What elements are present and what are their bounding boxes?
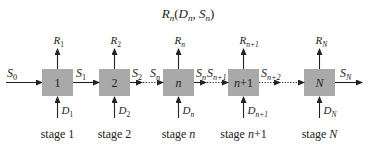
stage-caption: stage 2 (98, 127, 132, 141)
multistage-decision-diagram: Rn(Dn, Sn) S01R1D1stage 12R2D2stage 2nRn… (0, 0, 377, 151)
state-label: Sn (196, 66, 206, 82)
output-state-label: SN (340, 66, 352, 82)
decision-label: D1 (61, 104, 74, 119)
stage-box-label: 2 (112, 76, 118, 90)
state-label: Sn+2 (261, 66, 281, 82)
input-state-label: S0 (7, 66, 17, 82)
state-label: S1 (76, 66, 86, 82)
stage-caption: stage 1 (41, 127, 75, 141)
decision-label: D2 (118, 104, 131, 119)
state-label: S2 (132, 66, 142, 82)
return-label: R2 (110, 34, 122, 49)
stage-box-label: n (176, 76, 182, 90)
decision-label: Dn+1 (247, 104, 268, 119)
decision-label: DN (323, 104, 338, 119)
stage-caption: stage n (162, 127, 196, 141)
stages-layer: S01R1D1stage 12R2D2stage 2nRnDnstage nn+… (6, 34, 362, 141)
stage-box-label: n+1 (234, 76, 253, 90)
decision-label: Dn (182, 104, 195, 119)
stage-box-label: 1 (55, 76, 61, 90)
return-label: Rn+1 (239, 34, 259, 49)
return-label: R1 (53, 34, 65, 49)
stage-caption: stage N (302, 127, 339, 141)
state-label: Sn+1 (207, 66, 227, 82)
objective-title: Rn(Dn, Sn) (161, 6, 215, 23)
state-label: Sn (150, 66, 160, 82)
return-label: Rn (174, 34, 186, 49)
stage-caption: stage n+1 (220, 127, 266, 141)
stage-box-label: N (314, 76, 324, 90)
return-label: RN (315, 34, 329, 49)
